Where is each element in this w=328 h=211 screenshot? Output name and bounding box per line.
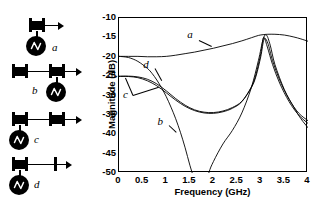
y-tick-label: -30	[102, 89, 116, 100]
output-b-arrow-icon	[76, 68, 82, 76]
y-tick-label: -25	[102, 69, 116, 80]
schematic-b-label: b	[32, 84, 38, 96]
curve-c	[119, 38, 308, 120]
curve-a	[119, 34, 308, 57]
y-tick-label: -15	[102, 30, 116, 41]
y-tick-label: -40	[102, 127, 116, 138]
figure-root: a b	[0, 0, 328, 211]
schematic-panel: a b	[0, 0, 104, 211]
output-a-line	[45, 25, 59, 27]
source-c-icon	[9, 130, 29, 150]
curve-b	[119, 35, 308, 173]
source-a-icon	[26, 36, 46, 56]
y-tick-label: -20	[102, 50, 116, 61]
coupling-b-line	[27, 71, 50, 73]
plot-area	[118, 17, 307, 172]
schematic-c-label: c	[34, 133, 39, 145]
output-a-arrow-icon	[58, 22, 64, 30]
curve-label-a: a	[187, 28, 193, 40]
y-tick-label: -45	[102, 147, 116, 158]
x-tick-label: 4	[293, 174, 321, 185]
y-tick-label: -35	[102, 108, 116, 119]
schematic-a-label: a	[52, 41, 58, 53]
x-axis-label: Frequency (GHz)	[118, 186, 307, 197]
magnitude-frequency-chart: Magnitude (dB) Frequency (GHz) -10-15-20…	[104, 0, 328, 211]
source-d-icon	[9, 175, 29, 195]
coupling-c-line	[27, 119, 50, 121]
output-d-arrow-icon	[66, 161, 72, 169]
curve-label-b: b	[157, 115, 163, 127]
coupling-d-line	[27, 164, 55, 166]
schematic-d-label: d	[34, 178, 40, 190]
y-tick-label: -10	[102, 11, 116, 22]
curve-label-c: c	[123, 88, 128, 100]
curve-label-d: d	[143, 58, 149, 70]
source-b-icon	[46, 82, 66, 102]
output-c-arrow-icon	[76, 116, 82, 124]
curve-layer	[119, 18, 308, 173]
